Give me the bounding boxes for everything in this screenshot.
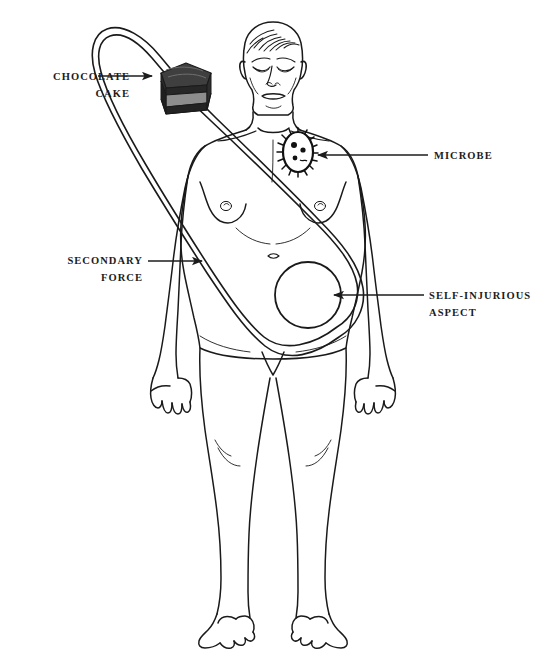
loop-band-outer xyxy=(99,35,358,346)
leg-right-inner xyxy=(276,378,298,618)
cheek-right xyxy=(288,78,296,94)
microbe-oval[interactable] xyxy=(277,128,318,177)
diagram-canvas: CHOCOLATE CAKE SECONDARY FORCE MICROBE S… xyxy=(0,0,546,658)
nostril-left xyxy=(266,83,272,85)
label-chocolate-cake: CHOCOLATE CAKE xyxy=(0,68,130,102)
foot-right xyxy=(292,614,348,648)
label-self-injurious-aspect: SELF-INJURIOUS ASPECT xyxy=(429,287,546,321)
groin-line xyxy=(262,352,284,375)
neck-left xyxy=(246,112,253,130)
leader-lines xyxy=(98,76,428,295)
brow-right xyxy=(277,58,295,62)
neck-right xyxy=(293,112,300,130)
label-microbe: MICROBE xyxy=(434,147,544,164)
mouth xyxy=(262,94,285,99)
leg-left-outer xyxy=(200,348,221,614)
microbe-squiggle xyxy=(300,160,307,161)
hand-left xyxy=(151,378,192,414)
hair-strokes xyxy=(247,30,299,53)
knee-left xyxy=(218,448,240,466)
head-outline xyxy=(244,22,303,115)
chocolate-cake-wedge[interactable] xyxy=(161,63,211,114)
cheek-left xyxy=(250,78,258,94)
hand-right xyxy=(355,378,396,414)
label-secondary-force-line2: FORCE xyxy=(0,269,143,286)
knee-left2 xyxy=(215,440,231,456)
chin-crease xyxy=(266,106,281,108)
label-secondary-force-line1: SECONDARY xyxy=(0,252,143,269)
knee-right xyxy=(306,448,328,466)
label-self-injurious-line1: SELF-INJURIOUS xyxy=(429,287,546,304)
microbe-nucleus-2 xyxy=(300,147,305,152)
label-self-injurious-line2: ASPECT xyxy=(429,304,546,321)
microbe-nucleus-3 xyxy=(293,156,298,161)
label-secondary-force: SECONDARY FORCE xyxy=(0,252,143,286)
self-injurious-aspect-circle[interactable] xyxy=(275,262,341,328)
foot-left xyxy=(199,614,255,648)
human-figure-outline xyxy=(151,22,396,648)
knee-right2 xyxy=(315,440,331,456)
clavicle-notch xyxy=(258,128,289,133)
leg-right-outer xyxy=(325,348,346,614)
arm-left xyxy=(153,146,205,378)
navel xyxy=(268,254,279,259)
nipple-left xyxy=(221,201,232,210)
nipple-right xyxy=(315,201,326,210)
sternum-line xyxy=(272,140,273,182)
ribcage-right xyxy=(276,228,310,244)
ribcage-left xyxy=(236,228,270,244)
microbe-nucleus-1 xyxy=(291,142,297,148)
leg-left-inner xyxy=(248,378,270,618)
label-chocolate-cake-line1: CHOCOLATE xyxy=(0,68,130,85)
label-chocolate-cake-line2: CAKE xyxy=(0,85,130,102)
label-microbe-line1: MICROBE xyxy=(434,147,544,164)
brow-left xyxy=(252,58,270,62)
hip-left xyxy=(200,336,250,352)
